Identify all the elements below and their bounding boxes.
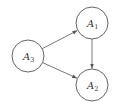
edge-a3-to-a1 <box>42 31 77 49</box>
node-a3: A3 <box>12 40 44 72</box>
node-a1: A1 <box>76 7 108 39</box>
graph-diagram: A3A1A2 <box>0 0 120 107</box>
node-a2: A2 <box>76 69 108 101</box>
edge-a3-to-a2 <box>43 63 77 79</box>
nodes: A3A1A2 <box>12 7 108 101</box>
